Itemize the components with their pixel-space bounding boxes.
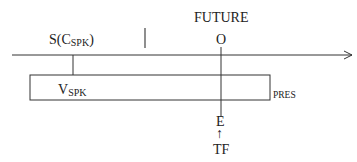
validity-label: VSPK (58, 83, 86, 98)
validity-main: V (58, 82, 68, 97)
future-label: FUTURE (194, 11, 248, 25)
tf-label: TF (213, 143, 229, 157)
present-label: PRES (273, 90, 296, 100)
validity-sub: SPK (68, 87, 86, 98)
arrow-up-icon: ↑ (216, 127, 223, 141)
speech-time-label: S(CSPK) (49, 33, 94, 48)
origin-label: O (216, 33, 226, 47)
speech-time-main: S(C (49, 32, 71, 47)
speech-time-close: ) (89, 32, 94, 47)
diagram-lines (0, 0, 357, 162)
speech-time-sub: SPK (71, 37, 89, 48)
